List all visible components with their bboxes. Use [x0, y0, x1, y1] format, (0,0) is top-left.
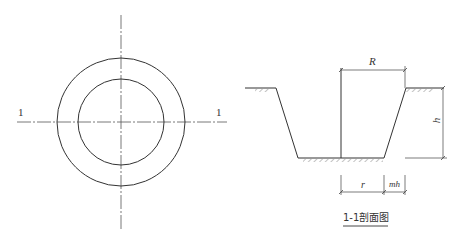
pit-outline [245, 88, 444, 158]
ground-hatch-bottom [303, 159, 383, 162]
ground-hatch-left [255, 89, 270, 92]
dim-h-label: h [431, 118, 442, 124]
dim-R-label: R [369, 56, 376, 67]
drawing-canvas [0, 0, 463, 242]
section-title: 1-1剖面图 [343, 213, 389, 223]
section-view [245, 66, 447, 226]
ground-hatch-right [406, 89, 433, 92]
dim-mh-label: mh [389, 180, 400, 189]
dim-r-label: r [361, 180, 365, 190]
section-mark-left: 1 [18, 107, 24, 118]
section-mark-right: 1 [216, 107, 222, 118]
plan-view [17, 15, 227, 229]
